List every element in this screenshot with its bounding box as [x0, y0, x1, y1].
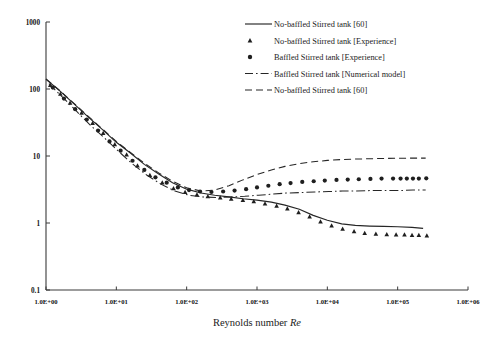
x-tick-label: 1.0E+03 [246, 298, 270, 305]
data-marker-circle [244, 187, 248, 191]
legend-marker-triangle [248, 38, 253, 42]
x-axis-title-text: Reynolds number Re [213, 317, 301, 328]
data-marker-triangle [183, 190, 188, 194]
data-marker-circle [221, 189, 225, 193]
data-marker-circle [346, 177, 350, 181]
series-1 [48, 83, 429, 238]
data-marker-triangle [296, 210, 301, 214]
data-marker-triangle [384, 232, 389, 236]
x-tick-label: 1.0E+00 [35, 298, 59, 305]
data-marker-triangle [340, 226, 345, 230]
data-curve [46, 79, 423, 228]
x-tick-label: 1.0E+01 [105, 298, 128, 305]
legend-label: No-baffled Stirred tank [Experience] [274, 37, 396, 46]
data-marker-circle [165, 181, 169, 185]
data-marker-triangle [417, 233, 422, 237]
legend-label: Baffled Stirred tank [Numerical model] [274, 70, 405, 79]
data-marker-triangle [124, 152, 129, 156]
data-series-layer [46, 79, 429, 238]
legend-label: No-baffled Stirred tank [60] [274, 20, 367, 29]
data-marker-triangle [425, 233, 430, 237]
x-axis-ticks: 1.0E+001.0E+011.0E+021.0E+031.0E+041.0E+… [35, 287, 481, 306]
x-tick-label: 1.0E+05 [386, 298, 410, 305]
data-marker-circle [424, 176, 428, 180]
data-marker-circle [278, 182, 282, 186]
y-tick-label: 0.1 [31, 287, 40, 295]
legend-entry: Baffled Stirred tank [Experience] [248, 53, 385, 62]
y-tick-label: 10 [33, 153, 41, 161]
data-marker-circle [334, 178, 338, 182]
data-marker-triangle [374, 231, 379, 235]
data-marker-circle [130, 159, 134, 163]
data-marker-circle [379, 176, 383, 180]
legend-entry: Baffled Stirred tank [Numerical model] [245, 70, 405, 79]
data-marker-circle [119, 149, 123, 153]
figure-container: 10001001010.1 1.0E+001.0E+011.0E+021.0E+… [0, 0, 494, 345]
data-marker-circle [266, 184, 270, 188]
data-marker-circle [323, 178, 327, 182]
data-marker-triangle [318, 219, 323, 223]
data-marker-circle [255, 185, 259, 189]
data-marker-circle [405, 176, 409, 180]
data-marker-circle [142, 168, 146, 172]
data-marker-circle [417, 176, 421, 180]
data-marker-triangle [329, 223, 334, 227]
data-marker-triangle [410, 233, 415, 237]
axis-frame [46, 22, 468, 290]
legend-label: No-baffled Stirred tank [60] [274, 86, 367, 95]
x-axis-title: Reynolds number Re [213, 317, 301, 328]
data-marker-circle [288, 181, 292, 185]
chart-legend: No-baffled Stirred tank [60]No-baffled S… [245, 20, 405, 95]
data-marker-circle [391, 176, 395, 180]
data-marker-circle [398, 176, 402, 180]
series-0 [46, 79, 423, 228]
legend-marker-circle [248, 55, 252, 59]
x-tick-label: 1.0E+02 [175, 298, 199, 305]
data-marker-circle [153, 175, 157, 179]
data-marker-triangle [402, 232, 407, 236]
data-marker-circle [232, 188, 236, 192]
y-tick-label: 1 [36, 220, 40, 228]
y-tick-label: 1000 [26, 19, 41, 27]
data-marker-triangle [394, 232, 399, 236]
x-tick-label: 1.0E+04 [316, 298, 340, 305]
x-axis-title-symbol: Re [289, 317, 301, 328]
data-marker-triangle [352, 229, 357, 233]
data-marker-triangle [274, 204, 279, 208]
data-marker-circle [300, 180, 304, 184]
x-tick-label: 1.0E+06 [457, 298, 481, 305]
legend-label: Baffled Stirred tank [Experience] [274, 53, 385, 62]
legend-entry: No-baffled Stirred tank [60] [245, 86, 367, 95]
legend-entry: No-baffled Stirred tank [60] [245, 20, 367, 29]
data-marker-circle [411, 176, 415, 180]
data-marker-triangle [362, 231, 367, 235]
data-marker-circle [368, 177, 372, 181]
legend-entry: No-baffled Stirred tank [Experience] [248, 37, 397, 46]
y-tick-label: 100 [29, 86, 40, 94]
data-marker-circle [357, 177, 361, 181]
chart-canvas: 10001001010.1 1.0E+001.0E+011.0E+021.0E+… [0, 0, 494, 345]
data-marker-circle [312, 179, 316, 183]
data-marker-circle [176, 185, 180, 189]
data-marker-triangle [171, 186, 176, 190]
series-2 [51, 85, 429, 194]
